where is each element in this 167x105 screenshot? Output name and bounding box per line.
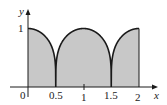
y-axis-label: y bbox=[18, 5, 24, 17]
x-axis-label: x bbox=[153, 89, 159, 101]
origin-label: 0 bbox=[20, 89, 26, 101]
y-tick-label-1: 1 bbox=[18, 22, 24, 34]
x-tick-label-0.5: 0.5 bbox=[49, 89, 63, 101]
y-axis-arrow-icon bbox=[26, 9, 31, 15]
x-tick-label-1: 1 bbox=[81, 91, 87, 103]
plot: y 1 0 0.5 1 1.5 2 x bbox=[0, 0, 167, 105]
x-tick-label-2: 2 bbox=[135, 91, 141, 103]
shaded-area bbox=[28, 29, 139, 88]
x-tick-label-1.5: 1.5 bbox=[104, 89, 118, 101]
